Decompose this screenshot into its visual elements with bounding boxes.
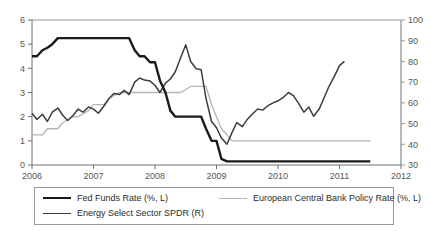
y-left-tick-label: 2: [20, 112, 25, 122]
legend-item-ecb-policy-rate: European Central Bank Policy Rate (%, L): [219, 193, 421, 203]
x-tick-label: 2009: [206, 171, 226, 181]
y-right-tick-label: 100: [408, 15, 423, 25]
plot-area: 0123456 30405060708090100 20062007200820…: [0, 0, 430, 185]
legend-label-energy-spdr: Energy Select Sector SPDR (R): [77, 208, 204, 218]
x-tick-label: 2006: [22, 171, 42, 181]
legend-line-icon-fed-funds: [43, 197, 71, 199]
y-axis-left-ticks: 0123456: [20, 15, 32, 170]
y-right-tick-label: 50: [408, 119, 418, 129]
y-right-tick-label: 40: [408, 140, 418, 150]
y-left-tick-label: 3: [20, 88, 25, 98]
legend-label-fed-funds: Fed Funds Rate (%, L): [77, 193, 168, 203]
legend-label-ecb: European Central Bank Policy Rate (%, L): [253, 193, 421, 203]
y-left-tick-label: 0: [20, 160, 25, 170]
legend-line-icon-energy-spdr: [43, 213, 71, 214]
x-axis-ticks: 2006200720082009201020112012: [22, 165, 411, 181]
series-line-energy-select-sector-spdr-r: [32, 45, 344, 144]
y-right-tick-label: 30: [408, 160, 418, 170]
x-tick-label: 2007: [83, 171, 103, 181]
y-right-tick-label: 60: [408, 98, 418, 108]
y-left-tick-label: 1: [20, 136, 25, 146]
y-right-tick-label: 70: [408, 77, 418, 87]
y-right-tick-label: 90: [408, 36, 418, 46]
y-left-tick-label: 5: [20, 39, 25, 49]
legend-line-icon-ecb: [219, 198, 247, 199]
y-right-tick-label: 80: [408, 57, 418, 67]
data-series-group: [32, 38, 370, 161]
x-tick-label: 2010: [268, 171, 288, 181]
chart-svg: 0123456 30405060708090100 20062007200820…: [0, 0, 430, 185]
series-line-fed-funds-rate-l: [32, 38, 370, 161]
x-tick-label: 2008: [145, 171, 165, 181]
x-tick-label: 2011: [330, 171, 349, 181]
y-axis-right-ticks: 30405060708090100: [401, 15, 423, 170]
y-left-tick-label: 6: [20, 15, 25, 25]
legend: Fed Funds Rate (%, L) Energy Select Sect…: [34, 187, 394, 225]
legend-item-energy-spdr: Energy Select Sector SPDR (R): [43, 208, 204, 218]
x-tick-label: 2012: [391, 171, 411, 181]
series-line-european-central-bank-policy-rate-l: [32, 86, 370, 140]
legend-item-fed-funds-rate: Fed Funds Rate (%, L): [43, 193, 168, 203]
chart-container: 0123456 30405060708090100 20062007200820…: [0, 0, 430, 231]
y-left-tick-label: 4: [20, 64, 25, 74]
